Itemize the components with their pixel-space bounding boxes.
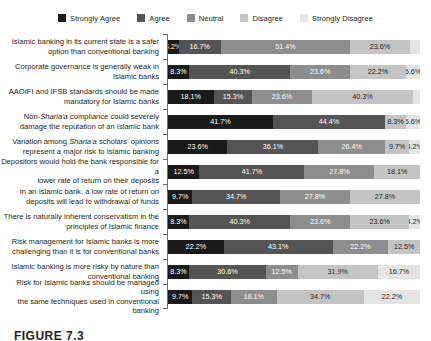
bar-segment: 34.7% (277, 290, 364, 304)
bar-segment-value-label: 27.8% (375, 192, 395, 201)
bar-segment: 22.2% (168, 240, 224, 254)
category-label: Corporate governance is generally weak i… (0, 62, 163, 81)
legend-label: Disagree (252, 14, 283, 23)
stacked-bar: 9.7%15.3%18.1%34.7%22.2% (168, 290, 420, 304)
bar-segment-value-label: 26.4% (342, 142, 362, 151)
bar-segment: 40.3% (312, 90, 414, 104)
bar-segment: 12.5% (168, 165, 199, 179)
bar-segment-value-label: 40.3% (229, 217, 249, 226)
bar-segment-value-label: 30.6% (217, 267, 237, 276)
bar-segment: 23.6% (290, 215, 349, 229)
bar-segment-value-label: 51.4% (275, 42, 295, 51)
bar-segment-value-label: 5.6% (406, 117, 420, 126)
chart-row: Risk for Islamic banks should be managed… (0, 284, 431, 309)
stacked-bar: 8.3%40.3%23.6%22.2%5.6% (168, 65, 420, 79)
bar-segment-value-label: 22.2% (368, 67, 388, 76)
chart-row: Islamic banking in its current state is … (0, 34, 431, 59)
bar-segment: 51.4% (221, 40, 351, 54)
bar-segment: 8.3% (168, 265, 189, 279)
axis-tick (163, 284, 168, 285)
bar-segment: 23.6% (252, 90, 311, 104)
bar-segment: 34.7% (192, 190, 279, 204)
legend-label: Agree (149, 14, 169, 23)
bar-segment-value-label: 12.5% (272, 267, 292, 276)
axis-tick (163, 234, 168, 235)
bar-segment-value-label: 22.2% (382, 292, 402, 301)
bar-segment: 23.6% (168, 140, 227, 154)
category-label: Non-Sharia'a compliance could severelyda… (0, 112, 163, 131)
bar-segment: 9.7% (385, 140, 409, 154)
legend-item: Strongly Disagree (300, 14, 373, 23)
bar-segment-value-label: 22.2% (350, 242, 370, 251)
stacked-bar: 22.2%43.1%22.2%12.5% (168, 240, 420, 254)
bar-segment (413, 90, 420, 104)
legend-label: Neutral (199, 14, 224, 23)
bar-segment-value-label: 23.6% (188, 142, 208, 151)
bar-segment: 15.3% (192, 290, 231, 304)
bar-segment: 31.9% (298, 265, 378, 279)
axis-tick (163, 84, 168, 85)
stacked-bar: 8.3%40.3%23.6%23.6%4.2% (168, 215, 420, 229)
bar-segment-value-label: 44.4% (319, 117, 339, 126)
axis-tick (163, 34, 168, 35)
bar-segment: 36.1% (227, 140, 318, 154)
bar-segment: 4.2% (168, 40, 179, 54)
bar-segment: 40.3% (189, 65, 291, 79)
bar-segment: 18.1% (231, 290, 277, 304)
chart-row: Depositors would hold the bank responsib… (0, 159, 431, 184)
chart-row: Corporate governance is generally weak i… (0, 59, 431, 84)
category-label: Risk management for Islamic banks is mor… (0, 237, 163, 256)
bar-segment: 23.6% (350, 40, 409, 54)
bar-segment: 23.6% (350, 215, 409, 229)
bar-segment-value-label: 41.7% (242, 167, 262, 176)
chart-row: Variation among Sharia'a scholars' opini… (0, 134, 431, 159)
chart-row: Risk management for Islamic banks is mor… (0, 234, 431, 259)
category-label: Depositors would hold the bank responsib… (0, 157, 163, 185)
chart-row: AAOIFI and IFSB standards should be made… (0, 84, 431, 109)
axis-tick (163, 308, 168, 309)
bar-segment: 9.7% (168, 290, 192, 304)
bar-segment-value-label: 23.6% (310, 217, 330, 226)
legend-swatch-icon (58, 14, 66, 22)
stacked-bar: 9.7%34.7%27.8%27.8% (168, 190, 420, 204)
bar-segment-value-label: 9.7% (172, 192, 188, 201)
axis-tick (163, 59, 168, 60)
bar-segment: 4.2% (409, 215, 420, 229)
axis-tick (163, 184, 168, 185)
bar-segment: 22.2% (333, 240, 389, 254)
chart-rows: Islamic banking in its current state is … (0, 34, 431, 309)
bar-segment: 18.1% (168, 90, 214, 104)
bar-segment: 23.6% (290, 65, 349, 79)
bar-segment-value-label: 23.6% (272, 92, 292, 101)
bar-segment-value-label: 12.5% (394, 242, 414, 251)
bar-segment: 15.3% (214, 90, 253, 104)
stacked-bar: 41.7%44.4%8.3%5.6% (168, 115, 420, 129)
bar-segment-value-label: 9.7% (172, 292, 188, 301)
legend-item: Strongly Agree (58, 14, 120, 23)
category-label: In an Islamic bank, a low rate of return… (0, 187, 163, 206)
bar-segment-value-label: 34.7% (310, 292, 330, 301)
axis-tick (163, 209, 168, 210)
axis-tick (163, 134, 168, 135)
category-label: Variation among Sharia'a scholars' opini… (0, 137, 163, 156)
bar-segment: 43.1% (224, 240, 333, 254)
category-label: Risk for Islamic banks should be managed… (0, 278, 163, 316)
chart-row: In an Islamic bank, a low rate of return… (0, 184, 431, 209)
legend-item: Disagree (240, 14, 283, 23)
bar-segment-value-label: 12.5% (174, 167, 194, 176)
bar-segment: 27.8% (304, 165, 374, 179)
bar-segment: 16.7% (378, 265, 420, 279)
stacked-bar: 4.2%16.7%51.4%23.6% (168, 40, 420, 54)
legend-swatch-icon (137, 14, 145, 22)
bar-segment-value-label: 27.8% (305, 192, 325, 201)
legend-swatch-icon (300, 14, 308, 22)
bar-segment: 30.6% (189, 265, 266, 279)
bar-segment-value-label: 16.7% (189, 42, 209, 51)
bar-segment: 8.3% (168, 65, 189, 79)
legend-swatch-icon (187, 14, 195, 22)
legend-swatch-icon (240, 14, 248, 22)
category-label: AAOIFI and IFSB standards should be made… (0, 87, 163, 106)
bar-segment (410, 40, 420, 54)
axis-tick (163, 109, 168, 110)
bar-segment: 9.7% (168, 190, 192, 204)
